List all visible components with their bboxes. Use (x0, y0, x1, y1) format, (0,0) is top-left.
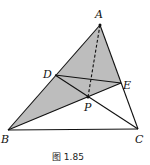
label-b: B (0, 133, 9, 146)
point-a (99, 24, 102, 27)
segment-bc (8, 129, 138, 130)
label-c: C (135, 133, 144, 146)
label-e: E (122, 79, 131, 92)
label-p: P (83, 101, 92, 114)
point-p (87, 96, 90, 99)
label-a: A (94, 8, 103, 21)
label-d: D (42, 68, 52, 81)
geometry-figure: A B C D E P 图 1.85 (0, 0, 150, 165)
shaded-region-abpe (8, 25, 121, 130)
figure-caption: 图 1.85 (52, 152, 84, 162)
